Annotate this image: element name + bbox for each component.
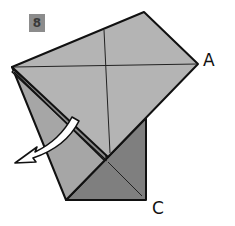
fold-illustration [0,0,235,226]
step-number-badge: 8 [29,14,45,32]
step-number: 8 [33,17,41,29]
corner-label-c: C [152,200,164,217]
corner-label-a: A [203,52,215,69]
origami-diagram: 8 A C [0,0,235,226]
